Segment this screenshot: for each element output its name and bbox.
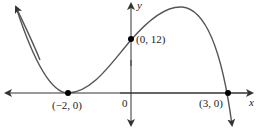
polynomial-graph: y x 0 (−2, 0) (0, 12) (3, 0) [0,0,258,129]
point-label-0-12: (0, 12) [136,33,165,45]
x-axis-label: x [249,96,254,108]
point-neg2-0 [65,90,71,96]
point-0-12 [128,36,134,42]
point-label-3-0: (3, 0) [199,97,223,109]
origin-label: 0 [122,97,128,109]
y-axis-label: y [137,0,142,11]
point-3-0 [225,90,231,96]
point-label-neg2-0: (−2, 0) [52,99,82,111]
graph-canvas [0,0,258,129]
